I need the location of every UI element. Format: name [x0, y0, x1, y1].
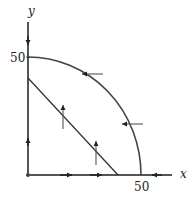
diagonal-line [28, 78, 118, 175]
y-tick-label: 50 [10, 52, 25, 64]
x-tick-label: 50 [134, 181, 149, 193]
x-axis-label: x [180, 168, 187, 180]
diagram-canvas [0, 0, 192, 209]
quarter-circle-curve [28, 57, 141, 175]
y-axis-label: y [28, 5, 35, 17]
phase-plane-diagram: y x 50 50 [0, 0, 192, 209]
origin-point [26, 173, 30, 177]
y-intercept-point [26, 55, 29, 58]
